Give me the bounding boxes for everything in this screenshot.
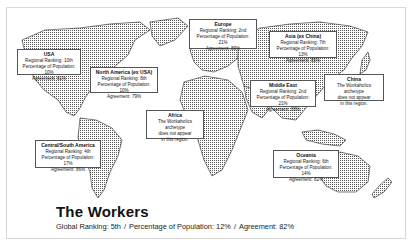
region-name: North America (ex USA) — [93, 69, 155, 76]
region-population: Percentage of Population: 10% — [93, 82, 155, 94]
region-agreement: Agreement: 86% — [38, 167, 98, 173]
region-box-usa: USA Regional Ranking: 10th Percentage of… — [17, 49, 81, 75]
region-population: Percentage of Population: 13% — [272, 46, 334, 58]
se-asia-islands-shape — [302, 130, 346, 146]
region-agreement: Agreement: 89% — [192, 46, 254, 52]
region-name: Oceania — [276, 152, 336, 159]
region-name: Europe — [192, 21, 254, 28]
region-name: Asia (ex China) — [272, 33, 334, 40]
region-note-line-1: The Workaholics archetype — [149, 119, 201, 131]
region-note-line-3: in this region. — [149, 137, 201, 143]
region-box-europe: Europe Regional Ranking: 2nd Percentage … — [189, 19, 257, 49]
global-population: Percentage of Population: 12% — [129, 222, 231, 231]
region-name: USA — [20, 51, 78, 58]
region-agreement: Agreement: 79% — [93, 94, 155, 100]
region-box-middle-east: Middle East Regional Ranking: 2nd Percen… — [250, 80, 316, 107]
region-population: Percentage of Population: 14% — [276, 165, 336, 177]
region-name: China — [327, 76, 381, 83]
region-population: Percentage of Population: 21% — [192, 34, 254, 46]
region-name: Africa — [149, 112, 201, 119]
region-note-line-1: The Workaholics archetype — [327, 83, 381, 95]
region-name: Central/South America — [38, 142, 98, 149]
region-note-line-3: in this region. — [327, 101, 381, 107]
region-agreement: Agreement: 82% — [276, 177, 336, 183]
region-box-north-america: North America (ex USA) Regional Ranking:… — [90, 67, 158, 93]
region-agreement: Agreement: 85% — [272, 58, 334, 64]
region-box-oceania: Oceania Regional Ranking: 6th Percentage… — [273, 150, 339, 178]
region-population: Percentage of Population: 10% — [20, 64, 78, 76]
region-name: Middle East — [253, 82, 313, 89]
region-population: Percentage of Population: 17% — [38, 155, 98, 167]
japan-shape — [360, 52, 370, 74]
new-zealand-shape — [372, 178, 392, 198]
separator: / — [121, 222, 129, 231]
global-stats: Global Ranking: 5th/Percentage of Popula… — [56, 222, 294, 231]
region-box-central-south-america: Central/South America Regional Ranking: … — [35, 140, 101, 168]
separator: / — [231, 222, 239, 231]
region-agreement: Agreement: 88% — [253, 107, 313, 113]
region-population: Percentage of Population: 21% — [253, 95, 313, 107]
global-ranking: Global Ranking: 5th — [56, 222, 121, 231]
region-box-africa: Africa The Workaholics archetype does no… — [146, 110, 204, 139]
region-agreement: Agreement: 81% — [20, 76, 78, 82]
region-box-china: China The Workaholics archetype does not… — [324, 74, 384, 101]
global-agreement: Agreement: 82% — [239, 222, 294, 231]
region-box-asia: Asia (ex China) Regional Ranking: 7th Pe… — [269, 31, 337, 58]
page-title: The Workers — [56, 203, 149, 220]
greenland-shape — [150, 18, 188, 46]
